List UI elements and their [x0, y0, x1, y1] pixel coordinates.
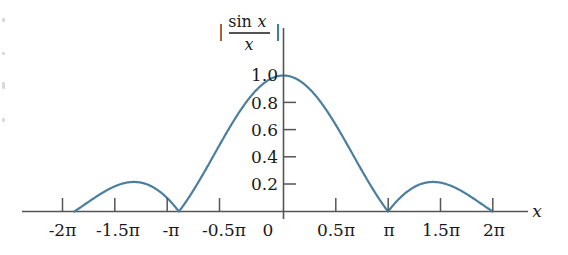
scan-artifact-mid: [2, 52, 5, 55]
ytick-label-0.6: 0.6: [251, 120, 278, 140]
scan-artifact-lower: [2, 82, 5, 89]
title-bar-right: |: [275, 22, 280, 41]
ytick-label-0.4: 0.4: [251, 147, 278, 167]
scan-artifact-top: [2, 18, 5, 22]
x-axis-label: x: [532, 201, 542, 221]
xtick-label-0.5pi: 0.5π: [317, 220, 355, 240]
xtick-label-neg-0.5pi: -0.5π: [202, 220, 246, 240]
title-numerator-fn: sin: [228, 12, 252, 31]
chart-canvas: -2π -1.5π -π -0.5π 0 0.5π π 1.5π 2π 1.0 …: [0, 0, 568, 255]
y-axis-ticks: [284, 102, 297, 184]
xtick-label-zero: 0: [263, 220, 274, 240]
title-denominator: x: [244, 35, 253, 54]
xtick-label-pi: π: [383, 220, 394, 240]
title-bar-left: |: [218, 22, 223, 41]
ytick-label-1.0: 1.0: [251, 65, 278, 85]
xtick-label-neg-pi: -π: [163, 220, 180, 240]
xtick-label-neg-2pi: -2π: [49, 220, 77, 240]
ytick-label-0.8: 0.8: [251, 93, 278, 113]
sinc-absolute-value-plot: -2π -1.5π -π -0.5π 0 0.5π π 1.5π 2π 1.0 …: [0, 0, 568, 255]
scan-artifact-bottom: [2, 118, 5, 122]
x-axis-ticks: [63, 198, 493, 212]
xtick-label-neg-1.5pi: -1.5π: [96, 220, 140, 240]
xtick-label-2pi: 2π: [483, 220, 505, 240]
chart-title: | sin x x |: [218, 12, 280, 54]
xtick-label-1.5pi: 1.5π: [422, 220, 460, 240]
title-numerator-var: x: [257, 12, 266, 31]
ytick-label-0.2: 0.2: [251, 174, 278, 194]
